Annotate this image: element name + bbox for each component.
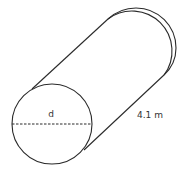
cylinder-back-arc bbox=[108, 11, 172, 75]
length-label: 4.1 m bbox=[137, 110, 163, 120]
cylinder-back-arc-top bbox=[108, 8, 176, 75]
cylinder-top-edge bbox=[32, 19, 108, 89]
diameter-label: d bbox=[48, 109, 54, 119]
cylinder-diagram: d 4.1 m bbox=[0, 0, 187, 178]
